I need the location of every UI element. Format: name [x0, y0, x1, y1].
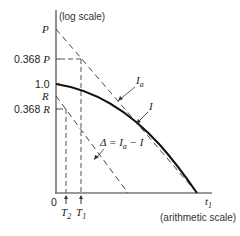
label-small-t1: t1	[205, 195, 212, 210]
label-0368r: 0.368 R	[14, 103, 50, 115]
y-axis-label: (log scale)	[59, 11, 105, 22]
label-i: I	[148, 100, 154, 112]
ia-pointer-head-icon	[118, 96, 123, 101]
origin-label: 0	[51, 196, 57, 208]
label-p: P	[41, 23, 49, 35]
x-axis-label: (arithmetic scale)	[160, 212, 236, 223]
label-0368p: 0.368 P	[14, 53, 50, 65]
label-ia: Ia	[135, 74, 144, 89]
label-delta: Δ = Ia − I	[99, 136, 145, 151]
label-t2: T2	[61, 206, 71, 221]
t2-arrowhead-icon	[64, 195, 68, 199]
log-scale-diagram: P 0.368 P 1.0 R 0.368 R (log scale) 0 T2…	[0, 0, 240, 236]
label-t1: T1	[76, 206, 86, 221]
t1-arrowhead-icon	[79, 195, 83, 199]
label-r: R	[41, 90, 49, 102]
ia-line	[56, 29, 197, 193]
label-one: 1.0	[35, 78, 50, 90]
